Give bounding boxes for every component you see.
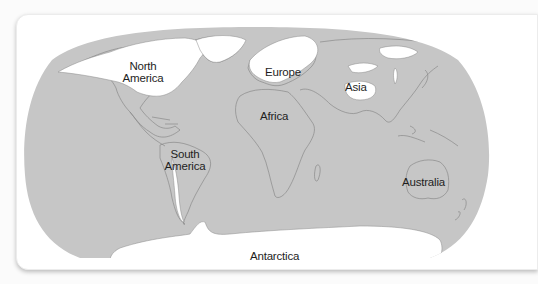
label-asia: Asia: [345, 81, 367, 93]
label-north-america: North America: [118, 60, 168, 84]
label-africa: Africa: [260, 110, 288, 122]
label-south-america: South America: [160, 148, 210, 172]
label-north-america-line2: America: [118, 72, 168, 84]
label-north-america-line1: North: [118, 60, 168, 72]
label-south-america-line2: America: [160, 160, 210, 172]
label-south-america-line1: South: [160, 148, 210, 160]
label-europe: Europe: [265, 66, 301, 78]
label-antarctica: Antarctica: [250, 250, 299, 262]
label-australia: Australia: [402, 176, 445, 188]
